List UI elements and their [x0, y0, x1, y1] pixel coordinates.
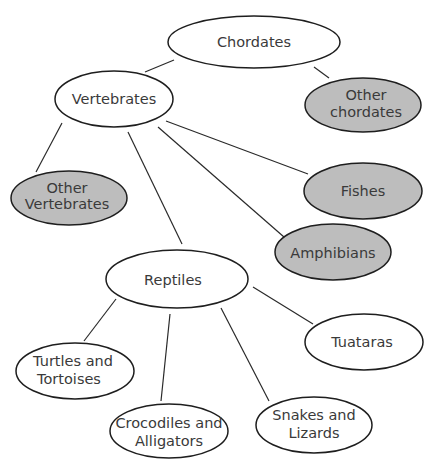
node-reptiles: Reptiles	[106, 250, 248, 308]
node-chordates: Chordates	[168, 16, 340, 68]
node-label: Vertebrates	[25, 196, 110, 212]
node-amphibians: Amphibians	[275, 224, 391, 280]
node-label: chordates	[330, 104, 402, 120]
node-label: Amphibians	[290, 245, 375, 261]
node-label: Snakes and	[272, 407, 356, 423]
edge-reptiles-turtles	[84, 299, 116, 341]
edge-vertebrates-reptiles	[128, 132, 182, 244]
node-label: Alligators	[135, 433, 203, 449]
node-label: Reptiles	[144, 272, 202, 288]
node-label: Other	[345, 87, 386, 103]
edge-vertebrates-other-vertebrates	[36, 123, 62, 172]
edge-vertebrates-amphibians	[158, 127, 284, 237]
edge-vertebrates-fishes	[166, 121, 308, 174]
node-label: Vertebrates	[72, 91, 157, 107]
edge-chordates-vertebrates	[145, 60, 174, 72]
node-crocodiles-and-alligators: Crocodiles and Alligators	[110, 404, 228, 458]
edge-reptiles-snakes	[221, 308, 269, 401]
node-label: Other	[46, 180, 87, 196]
node-label: Tortoises	[36, 371, 101, 387]
node-label: Tuataras	[330, 334, 393, 350]
node-vertebrates: Vertebrates	[55, 71, 173, 127]
edge-reptiles-crocodiles	[161, 314, 170, 401]
edge-reptiles-tuataras	[253, 287, 313, 324]
node-turtles-and-tortoises: Turtles and Tortoises	[16, 343, 134, 399]
node-label: Crocodiles and	[115, 415, 222, 431]
node-label: Lizards	[288, 425, 339, 441]
node-label: Turtles and	[32, 353, 113, 369]
node-other-chordates: Other chordates	[305, 78, 421, 132]
node-snakes-and-lizards: Snakes and Lizards	[256, 397, 372, 453]
edge-chordates-other-chordates	[314, 67, 329, 78]
node-other-vertebrates: Other Vertebrates	[11, 171, 127, 225]
node-fishes: Fishes	[304, 163, 422, 219]
node-label: Chordates	[217, 34, 291, 50]
node-label: Fishes	[341, 183, 386, 199]
concept-map: Chordates Vertebrates Other chordates Ot…	[0, 0, 434, 465]
node-tuataras: Tuataras	[305, 314, 423, 370]
